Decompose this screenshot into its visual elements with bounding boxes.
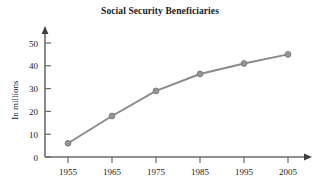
x-tick-label-1975: 1975	[147, 167, 166, 177]
y-axis	[42, 26, 49, 157]
x-axis-tick-labels: 1955 1965 1975 1985 1995 2005	[59, 167, 298, 177]
data-point-1975	[153, 88, 159, 94]
chart-figure: Social Security Beneficiaries	[0, 0, 320, 186]
data-point-2005	[285, 52, 291, 58]
x-axis-arrow-icon	[304, 154, 312, 161]
x-tick-label-1965: 1965	[103, 167, 122, 177]
y-axis-tick-labels: 0 10 20 30 40 50	[29, 39, 39, 163]
x-tick-label-1995: 1995	[235, 167, 254, 177]
y-tick-label-30: 30	[29, 84, 39, 94]
data-point-1985	[197, 71, 203, 77]
y-tick-label-50: 50	[29, 39, 39, 49]
data-series-line	[68, 54, 288, 143]
y-axis-label: In millions	[10, 80, 20, 120]
data-point-1995	[241, 61, 247, 67]
y-axis-arrow-icon	[42, 26, 49, 34]
y-tick-label-40: 40	[29, 61, 39, 71]
y-axis-ticks	[45, 43, 51, 157]
data-point-1965	[109, 113, 115, 119]
x-axis-ticks	[68, 157, 288, 163]
x-axis	[45, 154, 312, 161]
x-tick-label-1985: 1985	[191, 167, 210, 177]
data-point-1955	[65, 140, 71, 146]
data-point-markers	[65, 52, 291, 147]
x-tick-label-2005: 2005	[279, 167, 298, 177]
y-tick-label-10: 10	[29, 130, 39, 140]
y-tick-label-20: 20	[29, 107, 39, 117]
x-tick-label-1955: 1955	[59, 167, 78, 177]
y-tick-label-0: 0	[34, 153, 39, 163]
line-chart-plot: 0 10 20 30 40 50 1955 1965 1975 1985 199…	[0, 0, 320, 186]
